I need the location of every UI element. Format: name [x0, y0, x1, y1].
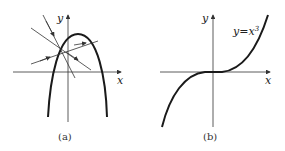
figure: x y (a) x y y=x3 (b) — [0, 0, 285, 151]
y-axis-label: y — [56, 12, 64, 25]
line-3-arrow-2 — [74, 43, 86, 45]
curve-label: y=x3 — [232, 25, 260, 38]
line-1-arrow — [46, 21, 54, 36]
panel-a: x y (a) — [13, 12, 124, 142]
caption-a: (a) — [58, 131, 72, 142]
line-3-arrow — [40, 57, 50, 61]
x-axis-label: x — [117, 74, 124, 87]
panel-b: x y y=x3 (b) — [160, 12, 272, 142]
x-axis-label: x — [265, 74, 272, 87]
y-axis-label: y — [201, 12, 209, 25]
caption-b: (b) — [203, 131, 217, 142]
